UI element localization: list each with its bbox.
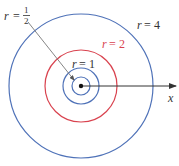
label-r-half: r = 1 2 (4, 5, 30, 26)
label-r-one-eq: = (79, 57, 86, 71)
label-r-two: r = 2 (102, 37, 125, 51)
label-r-four: r = 4 (137, 18, 160, 32)
label-r-half-den: 2 (24, 16, 29, 26)
label-r-one: r = 1 (72, 57, 95, 71)
level-curves-diagram: x r = 1 2 r = 1 r = 2 r = 4 (0, 0, 179, 166)
label-r-one-val: 1 (89, 57, 95, 71)
label-r-four-var: r (137, 18, 142, 32)
label-r-two-val: 2 (119, 37, 125, 51)
label-r-two-var: r (102, 37, 107, 51)
label-r-half-var: r (4, 9, 9, 23)
origin-point (79, 84, 83, 88)
label-r-four-eq: = (144, 18, 151, 32)
label-r-half-eq: = (13, 9, 20, 23)
pointer-line-r-half (28, 22, 74, 80)
x-axis-label: x (167, 91, 174, 105)
label-r-one-var: r (72, 57, 77, 71)
label-r-half-num: 1 (24, 5, 29, 15)
label-r-four-val: 4 (154, 18, 160, 32)
label-r-two-eq: = (109, 37, 116, 51)
